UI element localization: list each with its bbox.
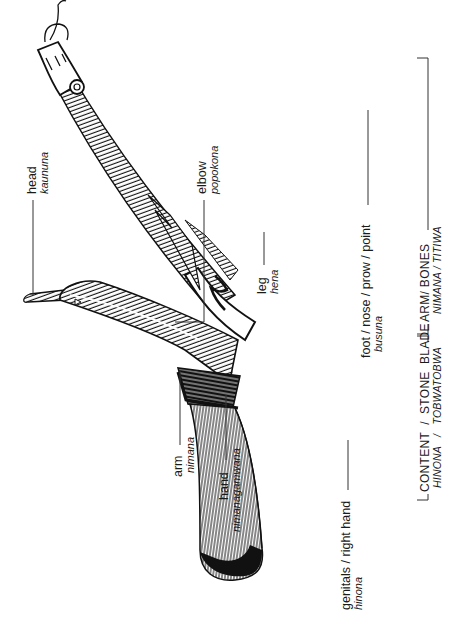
label-head-native: kaununa bbox=[39, 152, 51, 194]
adze-diagram: head kaununa elbow popokona leg hena foo… bbox=[0, 0, 464, 640]
arm-bones-bracket bbox=[417, 58, 428, 230]
label-genitals-native: hinona bbox=[353, 501, 365, 610]
label-genitals: genitals / right hand hinona bbox=[340, 501, 365, 610]
label-hand: hand nimanagamwana bbox=[218, 448, 243, 540]
label-elbow: elbow popokona bbox=[196, 146, 221, 194]
label-head: head kaununa bbox=[26, 152, 51, 194]
label-leg-native: hena bbox=[269, 270, 281, 294]
bracket-content-blade-en: CONTENT / STONE BLADE bbox=[419, 323, 432, 492]
label-arm-native: nimana bbox=[185, 437, 197, 477]
bracket-arm-bones: ARM/ BONES NIMANA / TITIWA bbox=[419, 226, 443, 322]
label-leg: leg hena bbox=[256, 270, 281, 294]
bracket-arm-bones-native: NIMANA / TITIWA bbox=[432, 226, 443, 322]
bracket-content-blade-native: HINONA / TOBWATOBWA bbox=[432, 323, 443, 492]
label-foot-native: busuna bbox=[373, 225, 385, 358]
label-foot: foot / nose / prow / point busuna bbox=[360, 225, 385, 358]
label-arm: arm nimana bbox=[172, 437, 197, 477]
content-bracket-left bbox=[417, 494, 428, 500]
label-hand-native: nimanagamwana bbox=[231, 448, 243, 540]
cord-end bbox=[50, 1, 66, 41]
label-elbow-native: popokona bbox=[209, 146, 221, 194]
adze-illustration bbox=[0, 0, 464, 640]
bracket-content-blade: CONTENT / STONE BLADE HINONA / TOBWATOBW… bbox=[419, 323, 443, 492]
bracket-arm-bones-en: ARM/ BONES bbox=[419, 226, 432, 322]
